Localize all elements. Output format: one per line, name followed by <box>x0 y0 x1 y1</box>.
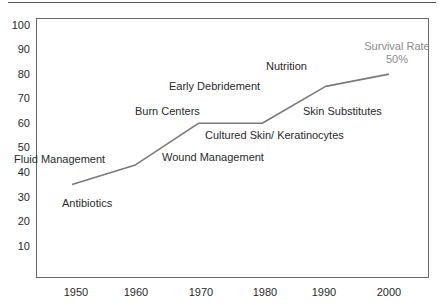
x-tick-1970: 1970 <box>181 286 221 298</box>
y-tick-100: 100 <box>4 19 30 31</box>
y-tick-80: 80 <box>4 68 30 80</box>
y-tick-10: 10 <box>4 240 30 252</box>
x-tick-1980: 1980 <box>245 286 285 298</box>
annotation-cultured-skin: Cultured Skin/ Keratinocytes <box>205 129 344 142</box>
y-tick-30: 30 <box>4 191 30 203</box>
y-tick-90: 90 <box>4 43 30 55</box>
x-tick-1960: 1960 <box>116 286 156 298</box>
survival-rate-value: 50% <box>358 53 436 66</box>
annotation-survival-rate: Survival Rate 50% <box>358 40 436 66</box>
x-tick-2000: 2000 <box>369 286 409 298</box>
annotation-fluid-management: Fluid Management <box>14 153 105 166</box>
annotation-antibiotics: Antibiotics <box>62 197 112 210</box>
y-tick-40: 40 <box>4 166 30 178</box>
annotation-wound-management: Wound Management <box>162 151 264 164</box>
annotation-early-debridement: Early Debridement <box>169 80 260 93</box>
y-tick-60: 60 <box>4 117 30 129</box>
annotation-nutrition: Nutrition <box>266 60 307 73</box>
x-tick-1990: 1990 <box>304 286 344 298</box>
y-tick-70: 70 <box>4 92 30 104</box>
survival-rate-label: Survival Rate <box>358 40 436 53</box>
annotation-burn-centers: Burn Centers <box>135 105 200 118</box>
x-tick-1950: 1950 <box>56 286 96 298</box>
y-tick-20: 20 <box>4 215 30 227</box>
y-tick-50: 50 <box>4 141 30 153</box>
annotation-skin-substitutes: Skin Substitutes <box>303 105 382 118</box>
